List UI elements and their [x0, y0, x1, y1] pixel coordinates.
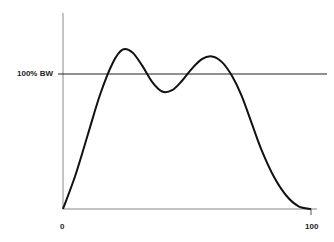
response-curve: [63, 49, 311, 209]
x-tick-label-100: 100: [305, 222, 318, 231]
reference-line-label: 100% BW: [17, 69, 53, 78]
bandwidth-chart: [0, 0, 334, 242]
x-tick-label-0: 0: [60, 222, 64, 231]
